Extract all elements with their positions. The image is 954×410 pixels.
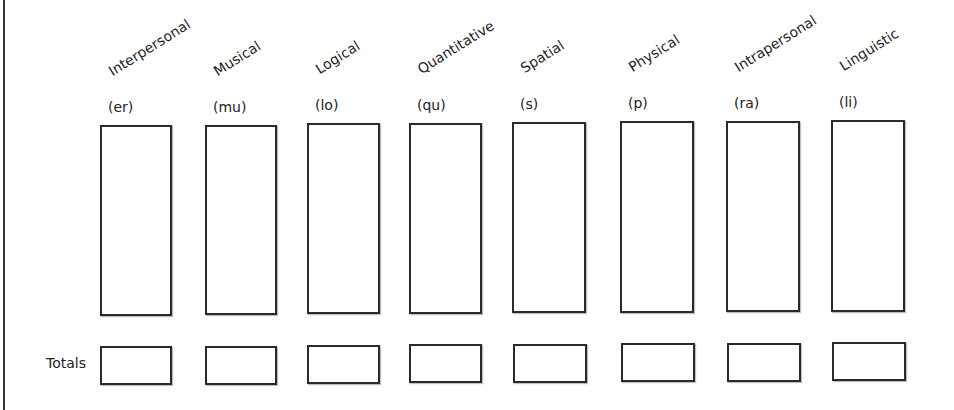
score-box-intrapersonal[interactable] <box>726 121 800 312</box>
category-label-intrapersonal: Intrapersonal <box>732 12 820 75</box>
total-box-interpersonal[interactable] <box>100 346 172 385</box>
totals-label: Totals <box>46 355 86 371</box>
category-label-musical: Musical <box>211 38 264 79</box>
score-box-spatial[interactable] <box>512 122 586 313</box>
total-box-linguistic[interactable] <box>832 342 906 381</box>
total-box-quantitative[interactable] <box>409 344 482 383</box>
left-border-line <box>3 0 5 410</box>
category-label-interpersonal: Interpersonal <box>106 16 194 79</box>
score-box-interpersonal[interactable] <box>100 125 172 316</box>
category-label-quantitative: Quantitative <box>415 17 497 77</box>
score-box-musical[interactable] <box>205 125 277 315</box>
total-box-spatial[interactable] <box>513 344 587 383</box>
category-abbr-physical: (p) <box>628 95 648 111</box>
category-abbr-spatial: (s) <box>520 96 538 112</box>
total-box-musical[interactable] <box>205 346 277 385</box>
total-box-physical[interactable] <box>621 343 695 382</box>
category-label-physical: Physical <box>626 31 683 75</box>
category-label-linguistic: Linguistic <box>837 25 902 74</box>
category-abbr-quantitative: (qu) <box>417 97 446 113</box>
category-label-spatial: Spatial <box>518 37 567 76</box>
category-abbr-linguistic: (li) <box>839 94 858 110</box>
score-box-logical[interactable] <box>307 123 380 314</box>
score-box-linguistic[interactable] <box>831 120 905 312</box>
score-box-physical[interactable] <box>620 121 694 313</box>
category-label-logical: Logical <box>313 37 363 77</box>
category-abbr-musical: (mu) <box>213 99 246 115</box>
category-abbr-logical: (lo) <box>315 97 338 113</box>
score-box-quantitative[interactable] <box>409 123 482 314</box>
category-abbr-intrapersonal: (ra) <box>734 95 759 111</box>
total-box-logical[interactable] <box>307 345 380 384</box>
category-abbr-interpersonal: (er) <box>108 99 133 115</box>
total-box-intrapersonal[interactable] <box>727 343 801 382</box>
